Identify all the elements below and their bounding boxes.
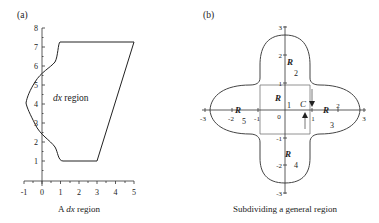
svg-text:1: 1 [279, 80, 283, 88]
region-r4-sub: 4 [294, 161, 298, 170]
svg-text:-3: -3 [200, 115, 206, 123]
curve-c-label: C [300, 99, 307, 109]
region-r5-sub: 5 [242, 117, 246, 126]
svg-text:2: 2 [336, 102, 340, 110]
svg-text:-1: -1 [254, 115, 260, 123]
region-r3-sub: 3 [330, 121, 334, 130]
region-r2-letter: R [286, 57, 293, 67]
svg-text:3: 3 [95, 188, 99, 197]
orientation-arrows [302, 89, 315, 129]
panel-b-caption: Subdividing a general region [233, 204, 338, 214]
svg-text:7: 7 [34, 43, 38, 52]
svg-text:3: 3 [279, 24, 283, 32]
panel-a-label: (a) [17, 10, 28, 21]
svg-text:4: 4 [34, 100, 38, 109]
svg-text:4: 4 [114, 188, 118, 197]
svg-text:0: 0 [277, 113, 281, 121]
region-r4-letter: R [284, 149, 291, 159]
x-tick-labels: -1 0 1 2 3 4 5 [21, 188, 136, 197]
svg-text:-3: -3 [276, 190, 282, 198]
svg-text:6: 6 [34, 62, 38, 71]
svg-text:1: 1 [34, 157, 38, 166]
figure: (a) [0, 0, 379, 223]
svg-text:-2: -2 [228, 115, 234, 123]
x-ticks [24, 181, 134, 184]
region-labels: R 1 R 2 R 3 R 4 R 5 C [234, 57, 334, 170]
svg-text:3: 3 [362, 115, 366, 123]
svg-text:-1: -1 [21, 188, 28, 197]
panel-a-caption: A dx region [58, 204, 101, 214]
region-r3-letter: R [322, 105, 329, 115]
svg-text:2: 2 [34, 138, 38, 147]
panel-b-label: (b) [203, 10, 214, 21]
svg-text:2: 2 [77, 188, 81, 197]
y-tick-labels-b: 3 2 1 -1 -2 -3 [276, 24, 282, 198]
dx-region-label: dx region [53, 93, 89, 103]
region-r1-sub: 1 [287, 101, 291, 110]
x-tick-labels-b: -3 -2 -1 0 1 2 3 [200, 102, 366, 123]
region-r5-letter: R [234, 105, 241, 115]
svg-text:1: 1 [59, 188, 63, 197]
region-r1-letter: R [274, 93, 281, 103]
svg-text:0: 0 [40, 188, 44, 197]
svg-text:2: 2 [279, 52, 283, 60]
svg-text:1: 1 [311, 115, 315, 123]
svg-text:-2: -2 [276, 162, 282, 170]
panel-b: (b) [200, 10, 366, 214]
panel-a: (a) [17, 10, 136, 214]
svg-text:8: 8 [34, 24, 38, 33]
region-r2-sub: 2 [294, 69, 298, 78]
y-tick-labels: 1 2 3 4 5 6 7 8 [34, 24, 38, 166]
y-ticks [42, 28, 45, 171]
svg-text:5: 5 [132, 188, 136, 197]
up-arrow-icon [302, 112, 308, 118]
svg-text:-1: -1 [276, 135, 282, 143]
